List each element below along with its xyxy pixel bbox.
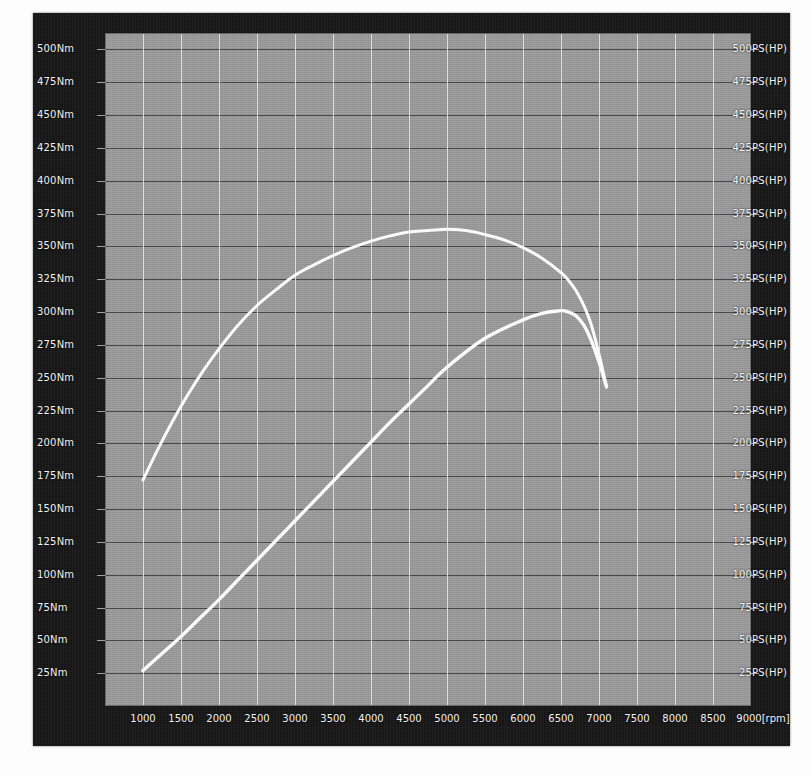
tick-mark-left [97,82,105,83]
y-tick-label-power: 500PS(HP) [732,43,787,54]
y-tick-label-power: 400PS(HP) [732,175,787,186]
y-tick-label-power: 250PS(HP) [732,372,787,383]
y-tick-label-torque: 225Nm [37,405,74,416]
tick-mark-left [97,542,105,543]
y-tick-label-torque: 175Nm [37,470,74,481]
x-tick-label-rpm: 9000[rpm] [725,713,801,724]
tick-mark-right [751,640,759,641]
tick-mark-left [97,575,105,576]
tick-mark-right [751,49,759,50]
tick-mark-left [97,181,105,182]
tick-mark-left [97,49,105,50]
y-tick-label-power: 375PS(HP) [732,208,787,219]
tick-mark-left [97,640,105,641]
y-tick-label-torque: 475Nm [37,76,74,87]
tick-mark-right [751,411,759,412]
torque-curve [143,229,607,480]
y-tick-label-torque: 500Nm [37,43,74,54]
tick-mark-left [97,312,105,313]
y-tick-label-torque: 75Nm [37,602,68,613]
tick-mark-left [97,443,105,444]
y-tick-label-power: 75PS(HP) [739,602,787,613]
tick-mark-left [97,214,105,215]
y-tick-label-power: 100PS(HP) [732,569,787,580]
tick-mark-right [751,673,759,674]
y-tick-label-torque: 325Nm [37,273,74,284]
tick-mark-right [751,82,759,83]
tick-mark-left [97,115,105,116]
y-tick-label-torque: 300Nm [37,306,74,317]
y-tick-label-power: 175PS(HP) [732,470,787,481]
tick-mark-right [751,542,759,543]
tick-mark-right [751,378,759,379]
tick-mark-right [751,148,759,149]
tick-mark-left [97,279,105,280]
tick-mark-right [751,181,759,182]
tick-mark-left [97,378,105,379]
y-tick-label-torque: 275Nm [37,339,74,350]
y-tick-label-power: 150PS(HP) [732,503,787,514]
y-tick-label-torque: 450Nm [37,109,74,120]
tick-mark-left [97,345,105,346]
y-tick-label-power: 225PS(HP) [732,405,787,416]
tick-mark-left [97,246,105,247]
tick-mark-right [751,246,759,247]
y-tick-label-torque: 400Nm [37,175,74,186]
y-tick-label-torque: 375Nm [37,208,74,219]
tick-mark-left [97,148,105,149]
y-tick-label-power: 300PS(HP) [732,306,787,317]
y-tick-label-power: 350PS(HP) [732,240,787,251]
y-tick-label-torque: 100Nm [37,569,74,580]
y-tick-label-torque: 425Nm [37,142,74,153]
y-tick-label-torque: 150Nm [37,503,74,514]
curve-layer [105,33,751,706]
y-tick-label-torque: 200Nm [37,437,74,448]
y-tick-label-power: 50PS(HP) [739,634,787,645]
tick-mark-right [751,345,759,346]
tick-mark-right [751,443,759,444]
tick-mark-right [751,509,759,510]
y-tick-label-torque: 250Nm [37,372,74,383]
tick-mark-left [97,673,105,674]
tick-mark-right [751,279,759,280]
y-tick-label-power: 475PS(HP) [732,76,787,87]
tick-mark-left [97,608,105,609]
tick-mark-left [97,509,105,510]
tick-mark-left [97,411,105,412]
tick-mark-left [97,476,105,477]
y-tick-label-power: 125PS(HP) [732,536,787,547]
tick-mark-right [751,608,759,609]
plot-area [105,33,751,706]
tick-mark-right [751,214,759,215]
y-tick-label-power: 425PS(HP) [732,142,787,153]
chart-frame: 25Nm50Nm75Nm100Nm125Nm150Nm175Nm200Nm225… [33,13,790,746]
y-tick-label-torque: 50Nm [37,634,68,645]
dyno-chart: 25Nm50Nm75Nm100Nm125Nm150Nm175Nm200Nm225… [0,0,811,776]
y-tick-label-power: 275PS(HP) [732,339,787,350]
y-tick-label-torque: 25Nm [37,667,68,678]
y-tick-label-power: 450PS(HP) [732,109,787,120]
tick-mark-right [751,476,759,477]
y-tick-label-power: 325PS(HP) [732,273,787,284]
tick-mark-right [751,575,759,576]
y-tick-label-torque: 350Nm [37,240,74,251]
tick-mark-right [751,115,759,116]
y-tick-label-torque: 125Nm [37,536,74,547]
power-curve [143,311,607,671]
tick-mark-right [751,312,759,313]
y-tick-label-power: 25PS(HP) [739,667,787,678]
y-tick-label-power: 200PS(HP) [732,437,787,448]
